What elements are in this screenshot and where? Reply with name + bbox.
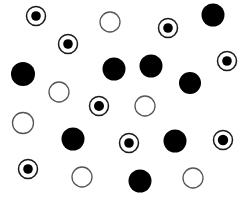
hollow-circle-icon: [49, 82, 69, 102]
marker-filled: [202, 4, 225, 27]
hollow-circle-icon: [13, 113, 34, 134]
marker-bullseye: [19, 160, 38, 179]
marker-hollow: [49, 82, 69, 102]
hollow-circle-icon: [72, 167, 92, 187]
marker-bullseye: [27, 7, 46, 26]
hollow-circle-icon: [100, 12, 120, 32]
bullseye-inner-dot: [218, 135, 228, 145]
marker-filled: [164, 130, 187, 153]
marker-hollow: [13, 113, 34, 134]
hollow-circle-icon: [183, 168, 203, 188]
marker-bullseye: [159, 19, 178, 38]
filled-circle-icon: [179, 72, 201, 94]
marker-bullseye: [120, 134, 139, 153]
bullseye-inner-dot: [63, 39, 73, 49]
filled-circle-icon: [202, 4, 225, 27]
marker-filled: [62, 128, 85, 151]
bullseye-inner-dot: [31, 11, 41, 21]
filled-circle-icon: [62, 128, 85, 151]
filled-circle-icon: [11, 62, 35, 86]
hollow-circle-icon: [135, 96, 155, 116]
marker-hollow: [100, 12, 120, 32]
filled-circle-icon: [103, 58, 126, 81]
marker-filled: [129, 170, 152, 193]
marker-filled: [140, 55, 163, 78]
dot-pattern-canvas: [0, 0, 246, 200]
marker-bullseye: [218, 52, 237, 71]
filled-circle-icon: [140, 55, 163, 78]
marker-filled: [179, 72, 201, 94]
bullseye-inner-dot: [23, 164, 33, 174]
marker-bullseye: [90, 97, 109, 116]
marker-hollow: [72, 167, 92, 187]
bullseye-inner-dot: [222, 56, 232, 66]
bullseye-inner-dot: [94, 101, 104, 111]
marker-filled: [11, 62, 35, 86]
filled-circle-icon: [129, 170, 152, 193]
marker-hollow: [183, 168, 203, 188]
marker-bullseye: [59, 35, 78, 54]
marker-filled: [103, 58, 126, 81]
marker-hollow: [135, 96, 155, 116]
bullseye-inner-dot: [163, 23, 173, 33]
dot-pattern-svg: [0, 0, 246, 200]
filled-circle-icon: [164, 130, 187, 153]
bullseye-inner-dot: [124, 138, 134, 148]
marker-bullseye: [214, 131, 233, 150]
